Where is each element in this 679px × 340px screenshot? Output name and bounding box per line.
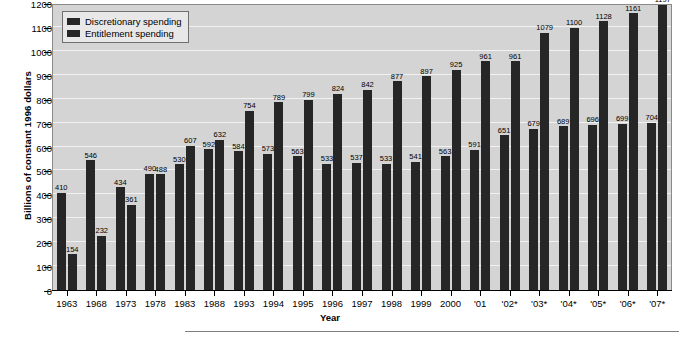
x-tick-label: 1994 [263, 298, 284, 309]
bar-value-label: 877 [391, 72, 404, 81]
x-axis-title: Year [320, 312, 340, 323]
bar: 689 [559, 126, 568, 291]
bar-group: 584754 [234, 4, 254, 291]
bar: 696 [588, 125, 597, 291]
bar-value-label: 651 [498, 126, 511, 135]
bar: 563 [293, 156, 302, 291]
bar: 1161 [629, 13, 638, 291]
bar-group: 537842 [352, 4, 372, 291]
x-tick-label: '03* [531, 298, 547, 309]
bar-value-label: 799 [302, 90, 315, 99]
x-tick-label: 1968 [86, 298, 107, 309]
x-tick-label: 1963 [56, 298, 77, 309]
bar-value-label: 573 [262, 144, 275, 153]
x-tick-mark [510, 291, 511, 296]
x-tick-mark [539, 291, 540, 296]
bar-group: 591961 [470, 4, 490, 291]
bar-value-label: 533 [321, 154, 334, 163]
bar: 584 [234, 151, 243, 291]
x-tick-mark [96, 291, 97, 296]
bar: 1079 [540, 33, 549, 291]
x-tick-mark [244, 291, 245, 296]
bar: 537 [352, 163, 361, 291]
bar: 961 [511, 61, 520, 291]
y-tick-label: 200 [18, 238, 52, 249]
bar: 824 [333, 94, 342, 291]
bar: 651 [500, 135, 509, 291]
x-tick-mark [451, 291, 452, 296]
x-tick-mark [185, 291, 186, 296]
bar-value-label: 842 [361, 80, 374, 89]
bar: 546 [86, 160, 95, 291]
x-tick-label: 1983 [174, 298, 195, 309]
x-tick-label: 1998 [381, 298, 402, 309]
bar-group: 651961 [500, 4, 520, 291]
y-tick-label: 400 [18, 190, 52, 201]
footer-divider [185, 331, 679, 332]
bar-group: 592632 [204, 4, 224, 291]
legend-label-discretionary: Discretionary spending [85, 16, 182, 27]
bar: 877 [393, 81, 402, 291]
bar-value-label: 897 [420, 67, 433, 76]
y-tick-label: 0 [18, 286, 52, 297]
bar-value-label: 537 [350, 153, 363, 162]
bar-value-label: 1161 [625, 4, 641, 13]
bar: 490 [145, 174, 154, 291]
x-tick-mark [67, 291, 68, 296]
bar-group: 490488 [145, 4, 165, 291]
y-tick-label: 500 [18, 166, 52, 177]
bar-group: 533824 [322, 4, 342, 291]
legend-swatch-icon [67, 18, 80, 25]
bar-value-label: 1079 [536, 23, 553, 32]
bar: 842 [363, 90, 372, 291]
chart-legend: Discretionary spending Entitlement spend… [62, 11, 189, 43]
x-tick-label: 1988 [204, 298, 225, 309]
bar: 679 [529, 129, 538, 291]
x-tick-mark [598, 291, 599, 296]
bar-group: 410154 [57, 4, 77, 291]
legend-item-discretionary: Discretionary spending [67, 15, 182, 27]
bar-value-label: 1197 [655, 0, 671, 4]
bar-value-label: 607 [184, 136, 197, 145]
legend-item-entitlement: Entitlement spending [67, 27, 182, 39]
bar-group: 533877 [382, 4, 402, 291]
x-tick-label: '02* [502, 298, 518, 309]
y-tick-label: 300 [18, 214, 52, 225]
bar-value-label: 563 [291, 147, 304, 156]
y-tick-label: 1100 [18, 22, 52, 33]
bar: 789 [274, 102, 283, 291]
bar-group: 6791079 [529, 4, 549, 291]
bar-value-label: 361 [125, 195, 138, 204]
x-tick-label: 1978 [145, 298, 166, 309]
bar: 410 [57, 193, 66, 291]
y-tick-label: 1200 [18, 0, 52, 10]
bar: 573 [263, 154, 272, 291]
x-tick-mark [273, 291, 274, 296]
bar-value-label: 789 [273, 93, 286, 102]
bar-group: 434361 [116, 4, 136, 291]
bar: 541 [411, 162, 420, 291]
bar-value-label: 1100 [566, 18, 582, 27]
bar: 754 [245, 111, 254, 291]
bar-group: 573789 [263, 4, 283, 291]
bar-group: 541897 [411, 4, 431, 291]
x-tick-label: '05* [590, 298, 606, 309]
y-tick-label: 100 [18, 262, 52, 273]
x-tick-label: 1997 [351, 298, 372, 309]
bar-group: 563799 [293, 4, 313, 291]
bar-value-label: 154 [66, 245, 79, 254]
bar: 897 [422, 76, 431, 291]
bar: 704 [647, 123, 656, 291]
bar: 1100 [570, 28, 579, 291]
bar-value-label: 696 [586, 115, 599, 124]
bar: 563 [441, 156, 450, 291]
bar: 533 [382, 164, 391, 291]
bar-group: 546232 [86, 4, 106, 291]
bar: 961 [481, 61, 490, 291]
bar-value-label: 563 [439, 147, 452, 156]
bar: 361 [127, 205, 136, 291]
x-tick-mark [214, 291, 215, 296]
bar-value-label: 754 [243, 101, 256, 110]
x-tick-label: '07* [649, 298, 665, 309]
bar-value-label: 232 [96, 226, 109, 235]
